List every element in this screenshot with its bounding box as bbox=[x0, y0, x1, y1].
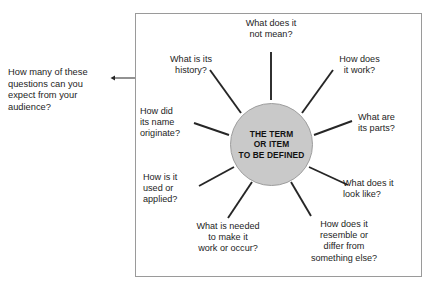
diagram-screenshot: How many of these questions can you expe… bbox=[0, 0, 431, 291]
spoke-label-parts: What are its parts? bbox=[358, 112, 424, 134]
spoke-label-how-works: How does it work? bbox=[322, 54, 397, 76]
spoke-label-name-origin: How did its name originate? bbox=[140, 106, 200, 140]
spoke-label-needed: What is needed to make it work or occur? bbox=[173, 221, 283, 255]
spoke-label-used: How is it used or applied? bbox=[143, 172, 205, 206]
spoke-label-look-like: What does it look like? bbox=[343, 178, 421, 200]
spoke-label-not-mean: What does it not mean? bbox=[221, 18, 321, 40]
hub-circle: THE TERM OR ITEM TO BE DEFINED bbox=[230, 103, 313, 186]
hub-label: THE TERM OR ITEM TO BE DEFINED bbox=[239, 129, 305, 160]
spoke-label-history: What is its history? bbox=[150, 54, 232, 76]
spoke-label-resemble: How does it resemble or differ from some… bbox=[291, 219, 397, 264]
